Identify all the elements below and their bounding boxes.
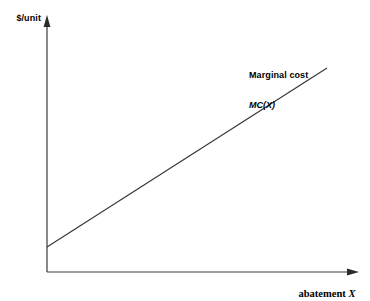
marginal-cost-chart <box>0 0 370 301</box>
y-axis <box>44 15 51 272</box>
series-annotation: Marginal cost MC(X) <box>249 52 308 130</box>
y-axis-label: $/unit <box>16 14 41 23</box>
series-annotation-symbol: MC(X) <box>249 101 308 110</box>
x-axis-label-variable: X <box>348 288 355 299</box>
x-axis-label: abatement X <box>288 277 355 301</box>
series-annotation-name: Marginal cost <box>249 71 308 80</box>
x-axis <box>47 268 359 275</box>
x-axis-label-text: abatement <box>299 288 346 299</box>
chart-figure: $/unit abatement X Marginal cost MC(X) <box>0 0 370 301</box>
y-axis-arrowhead-icon <box>44 15 51 27</box>
x-axis-arrowhead-icon <box>347 268 359 275</box>
